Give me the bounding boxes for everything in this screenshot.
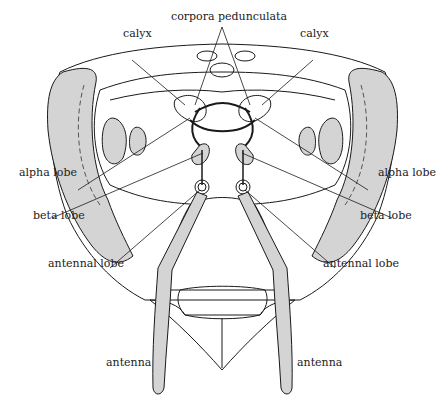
ocellus-median <box>210 63 234 77</box>
label-calyx-left: calyx <box>123 28 152 39</box>
ocellus-right <box>235 51 255 61</box>
label-corpora-pedunculata: corpora pedunculata <box>171 11 287 22</box>
label-antenna-left: antenna <box>106 357 151 368</box>
head-diagram <box>0 0 445 404</box>
label-beta-lobe-right: beta lobe <box>360 210 412 221</box>
label-antennal-lobe-left: antennal lobe <box>48 258 124 269</box>
label-alpha-lobe-right: alpha lobe <box>378 167 436 178</box>
label-antenna-right: antenna <box>297 357 342 368</box>
labrum <box>178 286 267 319</box>
optic-lobe-right <box>319 118 343 164</box>
label-calyx-right: calyx <box>300 28 329 39</box>
optic-lobe-left <box>102 118 126 164</box>
label-alpha-lobe-left: alpha lobe <box>19 167 77 178</box>
label-antennal-lobe-right: antennal lobe <box>323 258 399 269</box>
label-beta-lobe-left: beta lobe <box>33 210 85 221</box>
ocellus-left <box>197 51 217 61</box>
